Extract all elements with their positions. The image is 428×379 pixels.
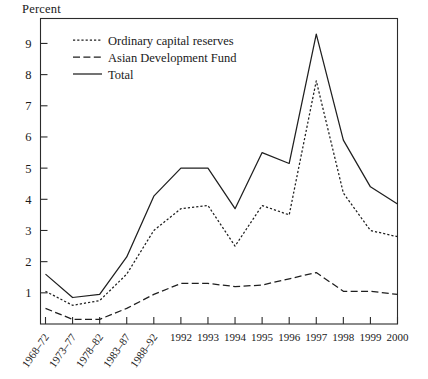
y-tick-label-4: 4 — [25, 193, 32, 207]
legend-label-ordinary: Ordinary capital reserves — [108, 34, 234, 48]
legend-label-adf: Asian Development Fund — [108, 51, 237, 65]
x-tick-label-1996: 1996 — [278, 331, 301, 343]
y-tick-label-2: 2 — [25, 255, 31, 269]
line-chart-plot: 123456789 1968–721973–771978–821983–8719… — [0, 0, 428, 379]
legend-label-total: Total — [108, 68, 134, 82]
x-tick-label-1998: 1998 — [332, 331, 355, 343]
y-axis-title: Percent — [22, 2, 61, 17]
x-axis-ticks — [46, 317, 398, 324]
y-tick-label-7: 7 — [25, 99, 31, 113]
series-line-dashed — [46, 273, 398, 320]
data-series-group — [46, 34, 398, 319]
x-tick-label-1993: 1993 — [197, 331, 220, 343]
chart-figure: Percent 123456789 1968–721973–771978–821… — [0, 0, 428, 379]
y-tick-label-5: 5 — [25, 162, 31, 176]
y-axis-ticks — [41, 43, 48, 292]
y-axis-tick-labels: 123456789 — [25, 37, 32, 300]
y-tick-label-3: 3 — [25, 224, 31, 238]
x-tick-label-1999: 1999 — [359, 331, 382, 343]
y-tick-label-8: 8 — [25, 68, 31, 82]
x-axis-tick-labels: 1968–721973–771978–821983–871988–9219921… — [19, 331, 409, 370]
series-line-dotted — [46, 81, 398, 305]
y-tick-label-1: 1 — [25, 286, 31, 300]
x-tick-label-1994: 1994 — [224, 331, 247, 343]
x-tick-label-1995: 1995 — [251, 331, 274, 343]
x-tick-label-1997: 1997 — [305, 331, 328, 343]
y-tick-label-9: 9 — [25, 37, 31, 51]
chart-legend: Ordinary capital reservesAsian Developme… — [73, 34, 237, 82]
x-tick-label-2000: 2000 — [387, 331, 410, 343]
x-tick-label-1992: 1992 — [170, 331, 192, 343]
x-tick-label-1988–92: 1988–92 — [128, 331, 160, 369]
y-tick-label-6: 6 — [25, 130, 31, 144]
